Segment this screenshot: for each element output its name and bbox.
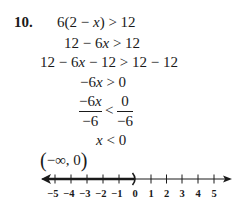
tick-label: 4 xyxy=(195,188,201,199)
tick-label: 0 xyxy=(132,188,137,199)
step-2-rhs: 12 xyxy=(125,35,140,51)
right-fraction: 0 −6 xyxy=(117,94,133,129)
right-numerator: 0 xyxy=(121,94,129,109)
result-rhs: 0 xyxy=(119,132,127,148)
tick-labels: −5 −4 −3 −2 −1 0 1 2 3 4 5 xyxy=(47,188,216,199)
step-4-op: > xyxy=(106,74,114,90)
tick-label: −1 xyxy=(111,188,122,199)
tick-label: −5 xyxy=(47,188,58,199)
step-1-lhs: 6(2 − x) xyxy=(57,14,105,30)
step-2-lhs: 12 − 6x xyxy=(64,35,109,51)
step-2: 12 − 6x > 12 xyxy=(64,35,140,51)
interval-text: −∞, 0 xyxy=(47,152,81,168)
step-4-lhs: −6x xyxy=(80,74,103,90)
right-fraction-bar xyxy=(117,111,133,112)
step-3-rhs: 12 − 12 xyxy=(132,54,178,70)
tick-label: 2 xyxy=(164,188,169,199)
left-denominator: −6 xyxy=(82,114,98,129)
step-3-lhs: 12 − 6x − 12 xyxy=(40,54,116,70)
step-2-op: > xyxy=(113,35,121,51)
tick-label: 3 xyxy=(179,188,184,199)
step-3-op: > xyxy=(120,54,128,70)
tick-label: −2 xyxy=(95,188,106,199)
right-denominator: −6 xyxy=(117,114,133,129)
left-numerator: −6x xyxy=(79,94,102,109)
left-fraction-bar xyxy=(79,111,102,112)
step-1-rhs: 12 xyxy=(121,14,136,30)
step-1: 6(2 − x) > 12 xyxy=(57,14,136,30)
result: x < 0 xyxy=(96,132,126,148)
result-op: < xyxy=(106,132,114,148)
step-1-op: > xyxy=(108,14,116,30)
tick-label: 1 xyxy=(148,188,153,199)
tick-label: −4 xyxy=(63,188,75,199)
tick-label: −3 xyxy=(79,188,90,199)
step-4: −6x > 0 xyxy=(80,74,126,90)
left-fraction: −6x −6 xyxy=(79,94,102,129)
step-3: 12 − 6x − 12 > 12 − 12 xyxy=(40,54,178,70)
tick-label: 5 xyxy=(211,188,216,199)
step-4-rhs: 0 xyxy=(119,74,127,90)
result-lhs: x xyxy=(96,132,103,148)
problem-number: 10. xyxy=(14,14,33,31)
fraction-step-op: < xyxy=(105,102,113,118)
number-line: −5 −4 −3 −2 −1 0 1 2 3 4 5 xyxy=(0,168,239,202)
